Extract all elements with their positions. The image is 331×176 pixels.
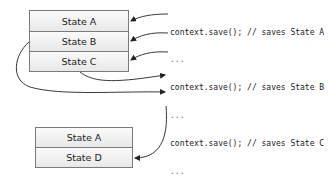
- arrow-save-c-icon: [131, 52, 168, 60]
- arrow-restore-c-icon: [80, 72, 165, 81]
- arrow-restore-b-icon: [16, 42, 165, 93]
- arrows-layer: [0, 0, 331, 176]
- arrow-save-d-icon: [135, 106, 166, 158]
- arrow-save-b-icon: [131, 33, 168, 41]
- arrow-save-a-icon: [131, 14, 168, 21]
